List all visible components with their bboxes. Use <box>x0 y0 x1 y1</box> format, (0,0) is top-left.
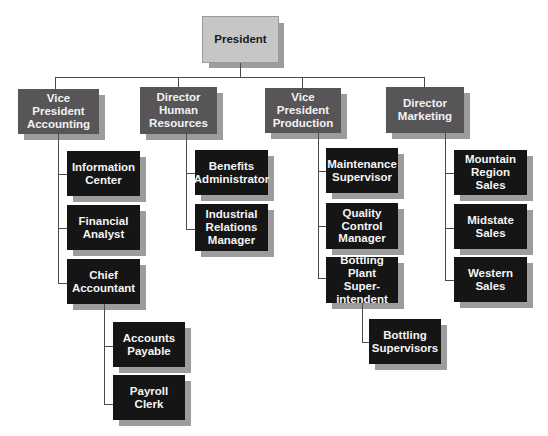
org-node-bottling-supervisors: Bottling Supervisors <box>369 319 441 364</box>
connector-to-production <box>302 77 303 88</box>
org-node-bottling-plant-superintendent: Bottling Plant Super- intendent <box>326 257 398 303</box>
node-label: Mountain Region Sales <box>458 153 523 192</box>
org-node-financial-analyst: Financial Analyst <box>67 205 140 250</box>
connector-president-down <box>240 63 241 78</box>
org-node-maintenance-supervisor: Maintenance Supervisor <box>326 148 398 193</box>
connector-accounting-vertical <box>58 134 59 284</box>
connector-production-vertical <box>318 133 319 279</box>
org-node-director-marketing: Director Marketing <box>386 87 464 133</box>
connector-midstate <box>445 228 454 229</box>
connector-to-accounting <box>55 77 56 89</box>
org-node-vp-production: Vice President Production <box>265 88 341 133</box>
org-node-vp-accounting: Vice President Accounting <box>18 89 99 134</box>
org-node-information-center: Information Center <box>67 151 140 196</box>
connector-western <box>445 280 454 281</box>
node-label: Industrial Relations Manager <box>206 208 258 247</box>
connector-marketing-vertical <box>445 133 446 280</box>
node-label: Bottling Supervisors <box>372 329 438 355</box>
node-label: Chief Accountant <box>72 269 135 295</box>
connector-hr-vertical <box>186 134 187 230</box>
node-label: Quality Control Manager <box>338 207 385 246</box>
node-label: Payroll Clerk <box>117 385 181 411</box>
connector-bottling-supervisors <box>362 342 369 343</box>
connector-department-bar <box>55 77 425 78</box>
org-node-accounts-payable: Accounts Payable <box>113 322 185 367</box>
org-chart: President Vice President Accounting Dire… <box>0 0 548 436</box>
org-node-quality-control-manager: Quality Control Manager <box>326 203 398 249</box>
org-node-midstate-sales: Midstate Sales <box>454 204 527 249</box>
org-node-mountain-region-sales: Mountain Region Sales <box>454 150 527 195</box>
node-label: President <box>214 33 266 46</box>
connector-to-hr <box>178 77 179 87</box>
connector-mountain-region <box>445 173 454 174</box>
connector-maintenance <box>318 171 326 172</box>
connector-chief-vertical <box>104 304 105 405</box>
org-node-payroll-clerk: Payroll Clerk <box>113 375 185 420</box>
org-node-western-sales: Western Sales <box>454 257 527 302</box>
node-label: Vice President Production <box>269 91 337 130</box>
node-label: Western Sales <box>468 267 513 293</box>
org-node-industrial-relations-manager: Industrial Relations Manager <box>195 204 268 251</box>
node-label: Bottling Plant Super- intendent <box>330 254 394 306</box>
org-node-chief-accountant: Chief Accountant <box>67 259 140 304</box>
org-node-president: President <box>202 16 279 63</box>
node-label: Financial Analyst <box>79 215 129 241</box>
node-label: Director Human Resources <box>149 91 208 130</box>
node-label: Benefits Administrator <box>194 160 269 186</box>
connector-to-marketing <box>424 77 425 87</box>
org-node-benefits-administrator: Benefits Administrator <box>195 150 268 195</box>
node-label: Vice President Accounting <box>22 92 95 131</box>
node-label: Information Center <box>72 161 135 187</box>
node-label: Maintenance Supervisor <box>327 158 397 184</box>
connector-quality-control <box>318 226 326 227</box>
connector-bottling-plant <box>318 278 326 279</box>
org-node-director-hr: Director Human Resources <box>140 87 217 134</box>
node-label: Accounts Payable <box>123 332 175 358</box>
node-label: Midstate Sales <box>467 214 514 240</box>
connector-bottling-vertical <box>362 303 363 343</box>
node-label: Director Marketing <box>398 97 452 123</box>
